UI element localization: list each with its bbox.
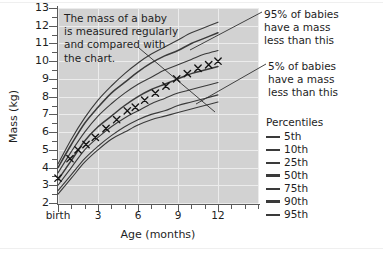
x-axis-tick (71, 205, 72, 209)
annotation-lower-percentile: 5% of babies have a mass less than this (268, 60, 382, 100)
legend-item-10th[interactable]: 10th (266, 143, 382, 156)
annotation-note-line-4: the chart. (64, 52, 214, 65)
gridline-horizontal (58, 8, 258, 9)
legend-line-swatch-icon (266, 188, 280, 190)
legend-line-swatch-icon (266, 200, 280, 203)
scan-rule-top (0, 2, 383, 3)
annotation-upper-line-1: 95% of babies (264, 8, 382, 21)
gridline-vertical (218, 8, 219, 203)
x-tick-label: 6 (135, 210, 142, 221)
x-axis-tick (111, 205, 112, 209)
y-axis-tick (49, 97, 57, 98)
scan-rule-bottom (0, 248, 383, 249)
growth-chart-figure: 1312111098765432 birth36912 Age (months)… (0, 0, 383, 266)
legend-item-50th[interactable]: 50th (266, 169, 382, 182)
y-axis-tick (49, 26, 57, 27)
annotation-upper-line-3: less than this (264, 34, 382, 47)
y-tick-label: 10 (3, 55, 49, 66)
annotation-lower-line-2: have a mass (268, 73, 382, 86)
gridline-horizontal (58, 150, 258, 151)
gridline-vertical (258, 8, 259, 203)
x-axis-tick (151, 205, 152, 209)
legend-item-label: 5th (284, 130, 301, 143)
annotation-lower-line-1: 5% of babies (268, 60, 382, 73)
y-tick-label: 13 (3, 2, 49, 13)
gridline-horizontal (58, 114, 258, 115)
x-axis-tick (231, 205, 232, 209)
legend: Percentiles 5th10th25th50th75th90th95th (266, 116, 382, 221)
x-axis-tick (165, 205, 166, 209)
gridline-horizontal (58, 185, 258, 186)
legend-item-label: 95th (284, 208, 308, 221)
annotation-lower-line-3: less than this (268, 86, 382, 99)
legend-item-label: 75th (284, 182, 308, 195)
y-axis-tick (49, 61, 57, 62)
legend-line-swatch-icon (266, 162, 280, 164)
y-axis-tick (49, 185, 57, 186)
annotation-upper-line-2: have a mass (264, 21, 382, 34)
gridline-vertical (58, 8, 59, 203)
y-axis-line (57, 6, 58, 205)
x-tick-label: 9 (175, 210, 182, 221)
annotation-note-line-3: and compared with (64, 38, 214, 51)
y-axis-tick (49, 43, 57, 44)
annotation-note-line-2: is measured regularly (64, 25, 214, 38)
y-axis-tick (49, 168, 57, 169)
legend-line-swatch-icon (266, 174, 280, 177)
legend-item-90th[interactable]: 90th (266, 195, 382, 208)
gridline-horizontal (58, 132, 258, 133)
legend-item-25th[interactable]: 25th (266, 156, 382, 169)
x-axis-tick (125, 205, 126, 209)
legend-item-group: 5th10th25th50th75th90th95th (266, 130, 382, 221)
y-axis-title: Mass (kg) (7, 82, 20, 152)
y-tick-label: 3 (3, 179, 49, 190)
y-tick-label: 11 (3, 37, 49, 48)
y-tick-label: 4 (3, 162, 49, 173)
legend-title: Percentiles (266, 116, 382, 129)
x-axis-line (57, 204, 260, 205)
x-tick-label: 3 (95, 210, 102, 221)
annotation-upper-percentile: 95% of babies have a mass less than this (264, 8, 382, 48)
y-tick-label: 12 (3, 20, 49, 31)
legend-line-swatch-icon (266, 136, 280, 138)
x-axis-tick (245, 205, 246, 209)
x-axis-title: Age (months) (58, 228, 258, 241)
x-tick-label: birth (46, 210, 71, 221)
y-axis-tick (49, 114, 57, 115)
legend-item-75th[interactable]: 75th (266, 182, 382, 195)
annotation-note-line-1: The mass of a baby (64, 12, 214, 25)
annotation-note: The mass of a baby is measured regularly… (64, 12, 214, 65)
x-tick-label: 12 (211, 210, 224, 221)
legend-line-swatch-icon (266, 149, 280, 151)
legend-item-label: 25th (284, 156, 308, 169)
legend-item-95th[interactable]: 95th (266, 208, 382, 221)
y-axis-tick (49, 203, 57, 204)
legend-item-5th[interactable]: 5th (266, 130, 382, 143)
legend-item-label: 10th (284, 143, 308, 156)
y-axis-tick (49, 150, 57, 151)
gridline-horizontal (58, 97, 258, 98)
x-axis-tick (191, 205, 192, 209)
x-axis-tick (258, 205, 259, 209)
legend-item-label: 50th (284, 169, 308, 182)
y-axis-tick (49, 79, 57, 80)
x-axis-tick (205, 205, 206, 209)
y-axis-tick (49, 132, 57, 133)
y-tick-label: 2 (3, 197, 49, 208)
y-axis-tick (49, 8, 57, 9)
legend-line-swatch-icon (266, 214, 280, 216)
gridline-horizontal (58, 168, 258, 169)
x-axis-tick (85, 205, 86, 209)
gridline-horizontal (58, 79, 258, 80)
legend-item-label: 90th (284, 195, 308, 208)
